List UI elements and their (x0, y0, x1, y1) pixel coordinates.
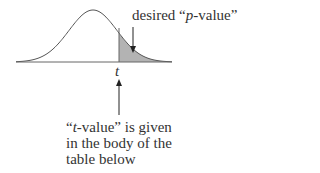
caption-line-2: in the body of the (66, 135, 236, 151)
t-value-arrow-head (116, 79, 122, 86)
caption-line-3: table below (66, 151, 236, 167)
t-label: t (115, 63, 119, 80)
caption-line-1-suffix: -value” is given (77, 119, 172, 135)
caption-line-1-prefix: “ (66, 119, 73, 135)
p-value-label-prefix: desired “ (132, 7, 186, 23)
t-value-caption: “t-value” is given in the body of the ta… (66, 119, 236, 167)
caption-line-1: “t-value” is given (66, 119, 236, 135)
p-value-label-suffix: -value” (193, 7, 237, 23)
p-value-label: desired “p-value” (132, 7, 237, 24)
